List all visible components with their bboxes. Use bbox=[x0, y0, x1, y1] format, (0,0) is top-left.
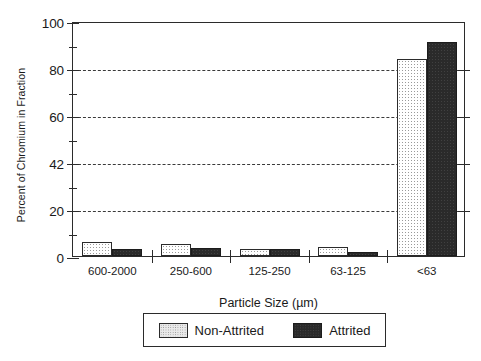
y-tick-major-right bbox=[458, 70, 470, 71]
y-tick-major bbox=[67, 211, 79, 212]
bar bbox=[318, 247, 348, 256]
x-tick-label: <63 bbox=[417, 265, 437, 277]
bar bbox=[82, 242, 112, 256]
y-tick-major bbox=[67, 23, 79, 24]
x-axis-title: Particle Size (µm) bbox=[72, 296, 465, 310]
bar bbox=[427, 42, 457, 256]
y-tick-major-right bbox=[458, 211, 470, 212]
legend-entry-non-attrited: Non-Attrited bbox=[159, 323, 264, 338]
x-tick-inner bbox=[152, 250, 153, 256]
y-tick-major bbox=[67, 258, 79, 259]
x-tick bbox=[309, 256, 310, 263]
bar bbox=[112, 249, 142, 256]
x-tick-inner bbox=[387, 250, 388, 256]
x-tick-label: 63-125 bbox=[330, 265, 366, 277]
y-tick-major bbox=[67, 164, 79, 165]
bar bbox=[240, 249, 270, 256]
plot-area: 020426080100 600-2000250-600125-25063-12… bbox=[72, 22, 465, 257]
x-tick-label: 125-250 bbox=[248, 265, 290, 277]
y-tick-major-right bbox=[458, 164, 470, 165]
y-tick-label: 42 bbox=[49, 157, 64, 172]
y-tick-minor bbox=[69, 47, 77, 48]
x-tick-inner bbox=[230, 250, 231, 256]
y-tick-major-right bbox=[458, 117, 470, 118]
y-tick-minor bbox=[69, 188, 77, 189]
y-tick-minor bbox=[69, 235, 77, 236]
bar bbox=[270, 249, 300, 256]
y-tick-major bbox=[67, 117, 79, 118]
y-tick-minor bbox=[69, 94, 77, 95]
bar bbox=[161, 244, 191, 256]
legend-entry-attrited: Attrited bbox=[293, 323, 370, 338]
legend-label-non-attrited: Non-Attrited bbox=[195, 323, 264, 338]
x-tick-label: 600-2000 bbox=[88, 265, 137, 277]
bar bbox=[397, 59, 427, 256]
y-tick-label: 0 bbox=[57, 251, 64, 266]
legend-label-attrited: Attrited bbox=[329, 323, 370, 338]
bar bbox=[191, 248, 221, 256]
x-tick bbox=[387, 256, 388, 263]
y-tick-major bbox=[67, 70, 79, 71]
bar bbox=[348, 252, 378, 256]
y-tick-label: 80 bbox=[49, 63, 64, 78]
legend-swatch-attrited bbox=[293, 323, 322, 338]
y-tick-minor bbox=[69, 141, 77, 142]
y-tick-label: 60 bbox=[49, 110, 64, 125]
x-tick bbox=[230, 256, 231, 263]
x-tick-inner bbox=[309, 250, 310, 256]
chart-figure: Percent of Chromium in Fraction 02042608… bbox=[0, 0, 481, 361]
legend-swatch-non-attrited bbox=[159, 323, 188, 338]
x-tick bbox=[152, 256, 153, 263]
y-axis-title: Percent of Chromium in Fraction bbox=[15, 45, 27, 245]
y-tick-label: 100 bbox=[42, 16, 64, 31]
x-tick-label: 250-600 bbox=[170, 265, 212, 277]
y-tick-label: 20 bbox=[49, 204, 64, 219]
chart-legend: Non-Attrited Attrited bbox=[143, 313, 386, 347]
